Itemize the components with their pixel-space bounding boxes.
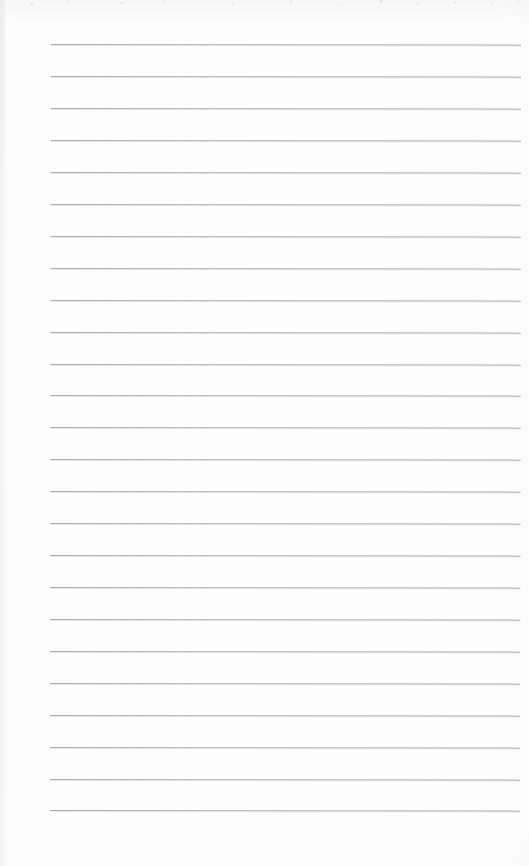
notepad-page [0, 0, 529, 866]
writing-area[interactable] [51, 30, 521, 822]
